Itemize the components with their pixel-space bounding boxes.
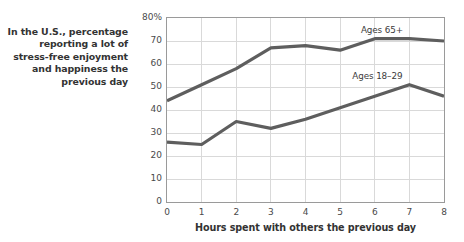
series-label-ages-65-plus: Ages 65+ [361,25,403,35]
y-axis-tick-labels: 01020304050607080% [118,0,162,242]
chart-caption: In the U.S., percentage reporting a lot … [4,26,128,88]
x-tick-label: 2 [233,207,239,217]
chart-canvas [167,18,444,202]
y-tick-label: 60 [118,58,162,68]
x-tick-label: 8 [441,207,447,217]
x-axis-title: Hours spent with others the previous day [166,222,445,233]
series-label-ages-18-29: Ages 18–29 [352,71,402,81]
x-tick-label: 4 [303,207,309,217]
y-tick-label: 40 [118,104,162,114]
x-tick-label: 1 [199,207,205,217]
x-tick-label: 6 [372,207,378,217]
y-tick-label: 0 [118,196,162,206]
y-tick-label: 20 [118,150,162,160]
x-axis-tick-labels: 012345678 [0,207,464,221]
x-tick-label: 7 [407,207,413,217]
plot-area [166,17,445,203]
y-tick-label: 80% [118,12,162,22]
y-tick-label: 10 [118,173,162,183]
y-tick-label: 70 [118,35,162,45]
chart-figure: In the U.S., percentage reporting a lot … [0,0,464,242]
y-tick-label: 30 [118,127,162,137]
x-tick-label: 0 [164,207,170,217]
x-tick-label: 5 [337,207,343,217]
x-tick-label: 3 [268,207,274,217]
y-tick-label: 50 [118,81,162,91]
